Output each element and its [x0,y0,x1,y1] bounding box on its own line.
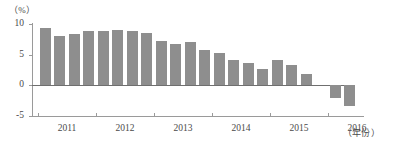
bar [98,31,109,85]
x-tick-label: 2016 [337,124,377,134]
bar-chart: （%） （年份） 1050-5 201120122013201420152016 [0,0,393,153]
bar [214,53,225,85]
x-tick-label: 2012 [105,124,145,134]
bar [40,28,51,85]
bar [257,69,268,86]
y-tick-mark [29,116,33,117]
bar [170,44,181,86]
bar [330,85,341,97]
bar [83,31,94,85]
bar [112,30,123,85]
x-tick-label: 2011 [47,124,87,134]
bar [286,65,297,85]
bar [141,33,152,85]
y-tick-label: 5 [2,50,24,60]
bar [301,74,312,86]
x-axis-line [32,116,364,117]
y-tick-label: 10 [2,19,24,29]
y-tick-label: 0 [2,80,24,90]
plot-area [32,24,364,116]
bar [185,42,196,85]
x-tick-label: 2015 [279,124,319,134]
bar [199,50,210,86]
bar [127,31,138,86]
bar [156,41,167,85]
bar [228,60,239,86]
x-tick-label: 2013 [163,124,203,134]
x-tick-label: 2014 [221,124,261,134]
bar [344,85,355,106]
bar [54,36,65,85]
bar [69,34,80,85]
y-tick-label: -5 [2,111,24,121]
y-axis-unit-label: （%） [9,3,35,16]
bar [243,63,254,85]
bar [272,60,283,86]
